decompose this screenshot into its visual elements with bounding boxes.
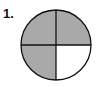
fraction-circle [0,0,102,87]
